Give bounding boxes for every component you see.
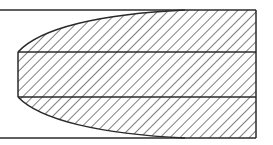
diagram-canvas [0,0,273,145]
hatched-region [18,10,256,138]
cross-section-figure [0,0,273,145]
